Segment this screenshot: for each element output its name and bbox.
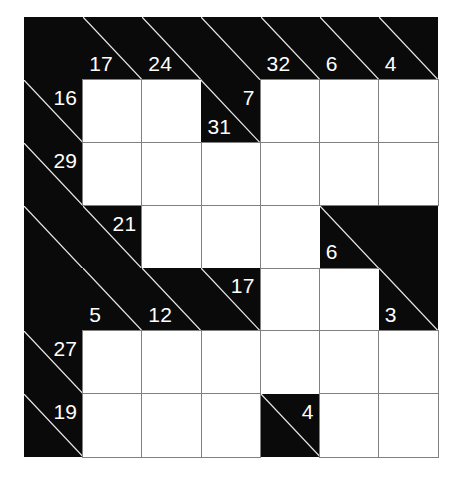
clue-cell: 4 xyxy=(379,17,438,80)
clue-cell: 16 xyxy=(24,80,83,143)
kakuro-grid[interactable]: 17243264163172921651217327194 xyxy=(24,17,438,457)
entry-cell[interactable] xyxy=(260,142,321,206)
block-cell xyxy=(379,206,438,269)
clue-cell: 5 xyxy=(83,268,142,331)
clue-cell: 32 xyxy=(261,17,320,80)
entry-cell[interactable] xyxy=(141,79,202,143)
entry-cell[interactable] xyxy=(378,79,439,143)
clue-cell xyxy=(201,17,260,80)
clue-across-value: 16 xyxy=(53,87,77,108)
clue-down-value: 3 xyxy=(385,304,397,325)
entry-cell[interactable] xyxy=(141,142,202,206)
clue-cell: 317 xyxy=(201,80,260,143)
clue-cell: 29 xyxy=(24,143,83,206)
entry-cell[interactable] xyxy=(141,393,202,457)
clue-cell: 3 xyxy=(379,268,438,331)
clue-across-value: 21 xyxy=(113,213,137,234)
clue-down-value: 31 xyxy=(207,116,231,137)
entry-cell[interactable] xyxy=(378,330,439,394)
entry-cell[interactable] xyxy=(201,142,262,206)
entry-cell[interactable] xyxy=(201,330,262,394)
entry-cell[interactable] xyxy=(319,330,380,394)
clue-cell: 17 xyxy=(201,268,260,331)
clue-across-value: 17 xyxy=(231,275,255,296)
entry-cell[interactable] xyxy=(319,268,380,332)
clue-cell: 6 xyxy=(320,206,379,269)
clue-diagonal-divider xyxy=(201,17,260,80)
entry-cell[interactable] xyxy=(378,142,439,206)
entry-cell[interactable] xyxy=(260,79,321,143)
entry-cell[interactable] xyxy=(201,393,262,457)
clue-down-value: 32 xyxy=(267,53,291,74)
clue-cell: 21 xyxy=(83,206,142,269)
clue-down-value: 17 xyxy=(89,53,113,74)
clue-cell: 17 xyxy=(83,17,142,80)
clue-cell xyxy=(24,206,83,269)
entry-cell[interactable] xyxy=(82,393,143,457)
clue-across-value: 19 xyxy=(53,401,77,422)
entry-cell[interactable] xyxy=(378,393,439,457)
clue-across-value: 4 xyxy=(302,401,314,422)
entry-cell[interactable] xyxy=(319,142,380,206)
entry-cell[interactable] xyxy=(82,79,143,143)
entry-cell[interactable] xyxy=(319,393,380,457)
entry-cell[interactable] xyxy=(82,330,143,394)
clue-down-value: 12 xyxy=(148,304,172,325)
clue-down-value: 6 xyxy=(326,241,338,262)
clue-cell: 27 xyxy=(24,331,83,394)
entry-cell[interactable] xyxy=(260,268,321,332)
entry-cell[interactable] xyxy=(82,142,143,206)
entry-cell[interactable] xyxy=(319,79,380,143)
clue-across-value: 29 xyxy=(53,150,77,171)
clue-cell: 6 xyxy=(320,17,379,80)
entry-cell[interactable] xyxy=(260,205,321,269)
clue-across-value: 27 xyxy=(53,338,77,359)
clue-cell: 4 xyxy=(261,394,320,457)
entry-cell[interactable] xyxy=(260,330,321,394)
entry-cell[interactable] xyxy=(141,330,202,394)
clue-across-value: 7 xyxy=(243,87,255,108)
clue-down-value: 5 xyxy=(89,304,101,325)
kakuro-puzzle-page: 17243264163172921651217327194 xyxy=(0,0,458,483)
clue-cell: 12 xyxy=(142,268,201,331)
block-cell xyxy=(24,268,83,331)
clue-down-value: 24 xyxy=(148,53,172,74)
block-cell xyxy=(24,17,83,80)
entry-cell[interactable] xyxy=(141,205,202,269)
clue-cell: 24 xyxy=(142,17,201,80)
clue-down-value: 6 xyxy=(326,53,338,74)
entry-cell[interactable] xyxy=(201,205,262,269)
clue-diagonal-divider xyxy=(24,206,83,269)
clue-down-value: 4 xyxy=(385,53,397,74)
clue-cell: 19 xyxy=(24,394,83,457)
